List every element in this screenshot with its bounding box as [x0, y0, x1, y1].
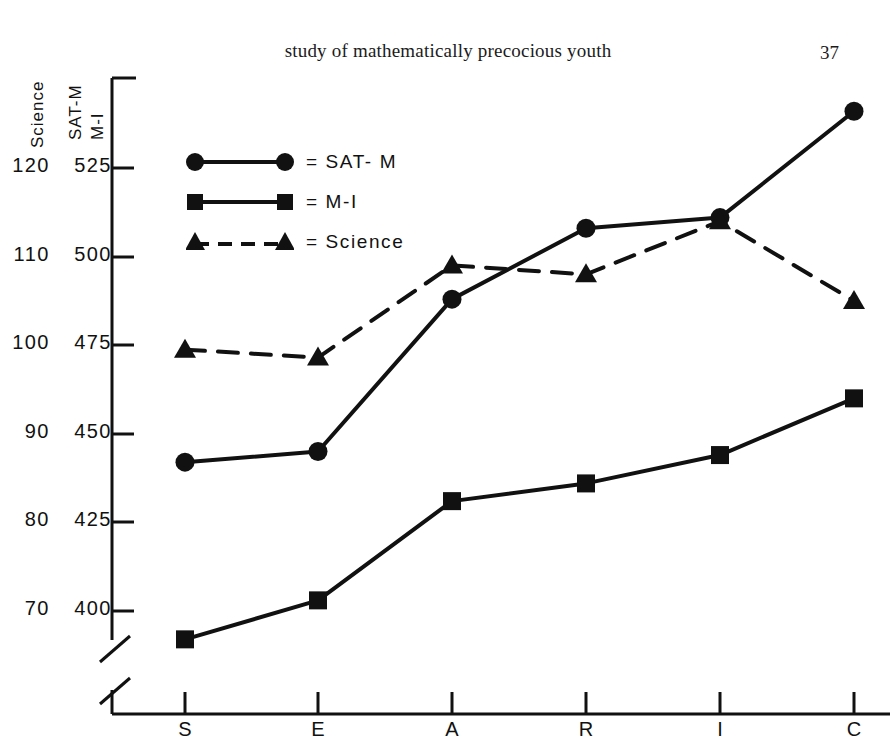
x-tick-S: S [165, 718, 205, 740]
y-tick-science-110: 110 [0, 243, 50, 266]
y-tick-science-100: 100 [0, 331, 50, 354]
y-tick-satm-475: 475 [54, 331, 112, 354]
series-m-i [176, 389, 863, 648]
y-tick-satm-525: 525 [54, 154, 112, 177]
x-tick-C: C [834, 718, 874, 740]
y-tick-science-90: 90 [0, 420, 50, 443]
y-tick-science-80: 80 [0, 508, 50, 531]
series-sat-m [176, 102, 864, 472]
y-tick-satm-450: 450 [54, 420, 112, 443]
x-tick-A: A [432, 718, 472, 740]
x-tick-I: I [700, 718, 740, 740]
y-tick-satm-500: 500 [54, 243, 112, 266]
x-tick-R: R [566, 718, 606, 740]
y-tick-satm-425: 425 [54, 508, 112, 531]
y-tick-science-120: 120 [0, 154, 50, 177]
y-tick-satm-400: 400 [54, 597, 112, 620]
series-science [174, 210, 865, 365]
y-tick-science-70: 70 [0, 597, 50, 620]
x-tick-E: E [298, 718, 338, 740]
